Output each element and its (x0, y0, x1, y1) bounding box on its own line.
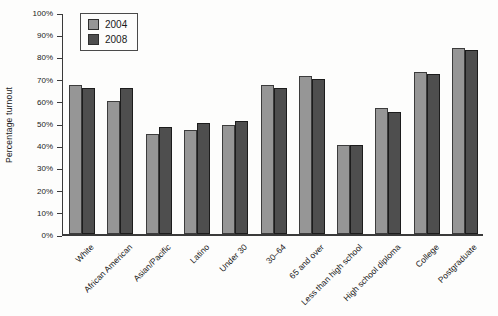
y-tick-label-90: 90% (15, 31, 53, 41)
x-label-text: 65 and over (287, 242, 326, 281)
y-tick-mark-100 (57, 14, 62, 15)
legend-swatch-2004 (88, 19, 99, 30)
y-tick-mark-60 (57, 102, 62, 103)
x-label-text: Asian/Pacific (131, 242, 172, 283)
legend-item-2004: 2004 (88, 19, 127, 30)
y-tick-mark-0 (57, 236, 62, 237)
bar-2008-asian-pacific (159, 127, 172, 234)
x-label-text: Latino (188, 242, 211, 265)
bar-2008-african-american (120, 88, 133, 235)
x-label-text: Under 30 (217, 242, 249, 274)
x-label-text: College (413, 242, 440, 269)
bar-2008-white (82, 88, 95, 235)
bar-2004-white (69, 85, 82, 234)
bar-2008-latino (197, 123, 210, 234)
bar-2004-65-and-over (299, 76, 312, 234)
legend-item-2008: 2008 (88, 34, 127, 45)
turnout-bar-chart: Percentage turnout 0%10%20%30%40%50%60%7… (0, 0, 498, 316)
x-label-text: Postgraduate (436, 242, 479, 285)
bar-2008-65-and-over (312, 79, 325, 234)
bar-2008-postgraduate (465, 50, 478, 234)
legend-label-2004: 2004 (105, 19, 127, 30)
y-tick-mark-50 (57, 125, 62, 126)
y-tick-mark-30 (57, 169, 62, 170)
x-label-text: White (74, 242, 96, 264)
y-tick-label-100: 100% (15, 9, 53, 19)
y-tick-label-30: 30% (15, 164, 53, 174)
y-tick-label-20: 20% (15, 187, 53, 197)
legend-swatch-2008 (88, 34, 99, 45)
bar-2004-african-american (107, 101, 120, 234)
y-tick-label-50: 50% (15, 120, 53, 130)
y-tick-label-40: 40% (15, 142, 53, 152)
y-tick-label-80: 80% (15, 53, 53, 63)
y-tick-mark-10 (57, 213, 62, 214)
legend-label-2008: 2008 (105, 34, 127, 45)
y-tick-mark-70 (57, 80, 62, 81)
x-label-text: 30–64 (264, 242, 288, 266)
bar-2004-postgraduate (452, 48, 465, 235)
y-tick-label-70: 70% (15, 76, 53, 86)
bar-2008-college (427, 74, 440, 234)
bar-2004-less-than-high-school (337, 145, 350, 234)
y-tick-mark-80 (57, 58, 62, 59)
bar-2004-30-64 (261, 85, 274, 234)
y-axis-title: Percentage turnout (4, 87, 14, 163)
bar-2008-30-64 (274, 88, 287, 235)
bar-2008-less-than-high-school (350, 145, 363, 234)
bar-2004-latino (184, 130, 197, 234)
bar-2004-asian-pacific (146, 134, 159, 234)
y-tick-label-10: 10% (15, 209, 53, 219)
legend: 20042008 (80, 13, 138, 51)
y-tick-mark-90 (57, 36, 62, 37)
y-tick-mark-40 (57, 147, 62, 148)
y-tick-label-0: 0% (15, 231, 53, 241)
y-tick-label-60: 60% (15, 98, 53, 108)
bar-2004-college (414, 72, 427, 234)
bar-2008-under-30 (235, 121, 248, 234)
bar-2004-under-30 (222, 125, 235, 234)
y-tick-mark-20 (57, 191, 62, 192)
bar-2008-high-school-diploma (388, 112, 401, 234)
bar-2004-high-school-diploma (375, 108, 388, 235)
